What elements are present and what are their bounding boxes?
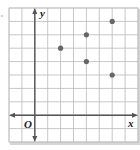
y-axis-label: y [38,7,45,19]
origin-label: O [24,118,32,130]
data-point [84,59,89,64]
data-point [110,19,115,24]
data-point [84,32,89,37]
stray-mark [1,15,3,17]
data-point [110,72,115,77]
data-point [58,46,63,51]
coordinate-plane: y x O [0,0,140,150]
x-axis-label: x [127,117,134,129]
